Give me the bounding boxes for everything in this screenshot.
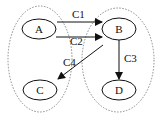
- node-c-label: C: [36, 84, 43, 96]
- node-d[interactable]: D: [102, 80, 136, 100]
- node-d-label: D: [115, 84, 123, 96]
- node-b[interactable]: B: [102, 18, 136, 40]
- edge-c4-label: C4: [63, 56, 76, 68]
- edge-c4: C4: [58, 45, 103, 79]
- node-a-label: A: [35, 23, 43, 35]
- edge-c1-label: C1: [72, 8, 85, 20]
- node-b-label: B: [115, 23, 122, 35]
- edge-c2-label: C2: [70, 35, 83, 47]
- diagram-canvas: A B C D C1 C2 C3 C4: [0, 0, 163, 120]
- edge-c3-label: C3: [124, 52, 137, 64]
- node-a[interactable]: A: [22, 19, 56, 39]
- edge-c1: C1: [57, 8, 102, 22]
- node-c[interactable]: C: [23, 80, 57, 100]
- edge-c3: C3: [119, 40, 137, 79]
- edge-c2: C2: [56, 35, 102, 47]
